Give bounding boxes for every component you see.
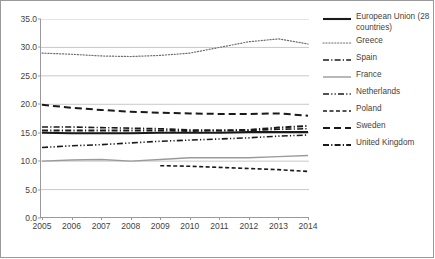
y-axis-tick-label: 10.0 xyxy=(20,156,37,166)
x-axis-tick-mark xyxy=(101,217,102,220)
y-axis-tick-label: 30.0 xyxy=(20,42,37,52)
legend-item[interactable]: Netherlands xyxy=(322,87,430,101)
legend-item[interactable]: Spain xyxy=(322,53,430,67)
y-axis-tick-mark xyxy=(38,132,41,133)
legend-item-label: Sweden xyxy=(356,121,386,132)
y-axis-tick-label: 20.0 xyxy=(20,99,37,109)
x-axis-tick-mark xyxy=(249,217,250,220)
x-axis-tick-mark xyxy=(131,217,132,220)
legend-line-swatch xyxy=(322,104,352,118)
x-axis-tick-label: 2014 xyxy=(299,221,318,231)
series-line xyxy=(42,132,308,133)
y-axis-tick-mark xyxy=(38,47,41,48)
x-axis-tick-label: 2012 xyxy=(239,221,258,231)
legend-line-swatch xyxy=(322,36,352,50)
y-axis-tick-mark xyxy=(38,161,41,162)
chart-legend: European Union (28 countries)GreeceSpain… xyxy=(322,12,430,155)
legend-line-swatch xyxy=(322,12,352,26)
x-axis-tick-label: 2005 xyxy=(33,221,52,231)
y-axis-tick-mark xyxy=(38,104,41,105)
legend-item-label: Netherlands xyxy=(356,87,400,98)
x-axis-tick-label: 2009 xyxy=(151,221,170,231)
y-axis-tick-label: 15.0 xyxy=(20,128,37,138)
y-axis-tick-label: 25.0 xyxy=(20,71,37,81)
x-axis-tick-label: 2007 xyxy=(92,221,111,231)
legend-item[interactable]: Sweden xyxy=(322,121,430,135)
y-axis-tick-label: 35.0 xyxy=(20,14,37,24)
legend-line-swatch xyxy=(322,87,352,101)
legend-line-swatch xyxy=(322,53,352,67)
x-axis-tick-label: 2010 xyxy=(180,221,199,231)
legend-item[interactable]: Poland xyxy=(322,104,430,118)
legend-item-label: Spain xyxy=(356,53,377,64)
legend-item-label: Poland xyxy=(356,104,382,115)
legend-item-label: France xyxy=(356,70,381,81)
y-axis-tick-mark xyxy=(38,218,41,219)
legend-item-label: European Union (28 countries) xyxy=(356,12,430,33)
x-axis-tick-mark xyxy=(190,217,191,220)
plot-lines xyxy=(41,19,309,218)
series-line xyxy=(160,166,308,172)
x-axis-tick-mark xyxy=(160,217,161,220)
series-line xyxy=(42,105,308,116)
legend-item[interactable]: France xyxy=(322,70,430,84)
legend-item[interactable]: European Union (28 countries) xyxy=(322,12,430,33)
x-axis-tick-mark xyxy=(219,217,220,220)
legend-line-swatch xyxy=(322,121,352,135)
x-axis-tick-mark xyxy=(72,217,73,220)
series-line xyxy=(42,135,308,148)
legend-item[interactable]: United Kingdom xyxy=(322,138,430,152)
legend-item-label: United Kingdom xyxy=(356,138,414,149)
chart-container: 0.05.010.015.020.025.030.035.0 200520062… xyxy=(0,0,435,259)
x-axis-tick-mark xyxy=(278,217,279,220)
plot-area: 0.05.010.015.020.025.030.035.0 200520062… xyxy=(40,19,308,218)
y-axis-tick-mark xyxy=(38,75,41,76)
y-axis-tick-mark xyxy=(38,19,41,20)
x-axis-tick-mark xyxy=(42,217,43,220)
y-axis-tick-mark xyxy=(38,189,41,190)
series-line xyxy=(42,155,308,161)
x-axis-tick-label: 2006 xyxy=(62,221,81,231)
x-axis-tick-label: 2013 xyxy=(269,221,288,231)
x-axis-tick-label: 2011 xyxy=(210,221,228,231)
legend-line-swatch xyxy=(322,138,352,152)
legend-item[interactable]: Greece xyxy=(322,36,430,50)
x-axis-tick-label: 2008 xyxy=(121,221,140,231)
x-axis-tick-mark xyxy=(308,217,309,220)
legend-item-label: Greece xyxy=(356,36,383,47)
legend-line-swatch xyxy=(322,70,352,84)
y-axis-tick-label: 5.0 xyxy=(25,185,37,195)
